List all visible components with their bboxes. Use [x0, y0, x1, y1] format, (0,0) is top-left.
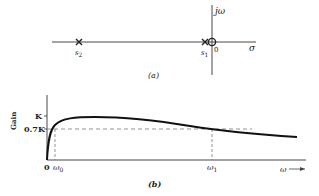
ylabel-gain: Gain	[9, 112, 18, 130]
arrow-right-icon	[289, 167, 305, 171]
imag-axis-label: jω	[213, 6, 226, 16]
pole-s1-label: s1	[201, 49, 208, 58]
tick-label-w1: ω1	[207, 163, 217, 173]
origin-label-b: 0	[44, 162, 50, 172]
gain-plot: Gain K 0.7K 0 ω0 ω1 ω (b)	[9, 95, 306, 189]
diagram-canvas: jω σ 0 s2 s1 (a) Gain K 0.7K 0 ω0 ω1 ω (…	[0, 0, 319, 196]
s-plane: jω σ 0 s2 s1 (a)	[52, 5, 256, 80]
tick-label-k: K	[35, 111, 43, 121]
tick-label-07k: 0.7K	[24, 124, 46, 134]
origin-label-a: 0	[214, 46, 218, 54]
pole-s2-label: s2	[75, 49, 83, 58]
tick-label-w0: ω0	[53, 163, 64, 173]
caption-a: (a)	[148, 71, 159, 80]
caption-b: (b)	[148, 179, 161, 189]
gain-curve	[47, 117, 297, 160]
real-axis-label: σ	[249, 43, 256, 53]
xlabel-omega: ω	[280, 165, 287, 174]
